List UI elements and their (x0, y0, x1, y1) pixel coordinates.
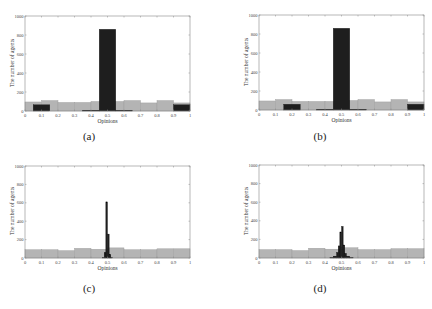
y-tick-label: 1000 (249, 13, 259, 18)
histogram-bar (174, 249, 191, 258)
histogram-bar (358, 100, 375, 110)
histogram-bar (42, 250, 59, 258)
histogram-bar (408, 104, 425, 110)
y-tick-label: 400 (17, 71, 25, 76)
x-tick-label: 0.2 (55, 260, 61, 265)
panel-caption: (b) (300, 130, 340, 142)
x-tick-label: 0.2 (289, 112, 295, 117)
x-tick-label: 0.7 (138, 113, 144, 118)
x-tick-label: 0.3 (72, 113, 78, 118)
y-tick-label: 800 (17, 33, 25, 38)
histogram-bar (309, 248, 326, 258)
x-tick-label: 0 (24, 260, 27, 265)
x-tick-label: 1 (189, 113, 191, 118)
x-tick-label: 0.1 (39, 260, 45, 265)
x-tick-label: 0.4 (322, 112, 328, 117)
histogram-bar (75, 248, 92, 258)
x-tick-label: 0.3 (72, 260, 78, 265)
x-tick-label: 0.2 (55, 113, 61, 118)
histogram-bar (58, 251, 75, 258)
histogram-bar (408, 249, 425, 258)
y-tick-label: 1000 (249, 163, 259, 168)
histogram-bar (340, 232, 342, 258)
x-tick-label: 0.3 (306, 112, 312, 117)
histogram-bar (109, 254, 111, 258)
histogram-panel-b: 00.10.20.30.40.50.60.70.80.9102004006008… (216, 0, 432, 154)
y-tick-label: 800 (251, 32, 259, 37)
x-tick-label: 0.1 (273, 260, 279, 265)
y-tick-label: 600 (251, 51, 259, 56)
histogram-bar (124, 101, 141, 111)
histogram-bar (343, 245, 345, 258)
y-tick-label: 800 (17, 182, 25, 187)
panel-caption: (d) (300, 282, 340, 294)
panel-caption: (c) (69, 282, 109, 294)
histogram-bar (141, 103, 158, 111)
x-tick-label: 0.8 (154, 113, 160, 118)
x-tick-label: 0.1 (39, 113, 45, 118)
y-tick-label: 400 (17, 219, 25, 224)
histogram-bar (99, 29, 116, 111)
series-final (33, 29, 190, 111)
histogram-bar (338, 246, 340, 258)
x-tick-label: 0.9 (405, 260, 411, 265)
histogram-bar (25, 250, 42, 258)
x-axis-label: Opinions (98, 118, 118, 124)
x-tick-label: 0.2 (289, 260, 295, 265)
histogram-panel-c: 00.10.20.30.40.50.60.70.80.9102004006008… (0, 154, 216, 308)
histogram-bar (106, 202, 108, 258)
x-tick-label: 0.8 (154, 260, 160, 265)
x-tick-label: 0.6 (355, 112, 361, 117)
x-tick-label: 1 (423, 260, 425, 265)
x-tick-label: 1 (423, 112, 425, 117)
y-tick-label: 400 (251, 218, 259, 223)
y-tick-label: 200 (251, 89, 259, 94)
x-tick-label: 0.6 (355, 260, 361, 265)
histogram-bar (292, 251, 309, 258)
histogram-bar (375, 102, 392, 110)
x-tick-label: 0.7 (372, 260, 378, 265)
x-tick-label: 0.3 (306, 260, 312, 265)
y-tick-label: 200 (251, 237, 259, 242)
y-tick-label: 1000 (15, 14, 25, 19)
panel-caption: (a) (69, 130, 109, 142)
histogram-bar (124, 250, 141, 258)
x-tick-label: 0.9 (171, 113, 177, 118)
y-tick-label: 800 (251, 181, 259, 186)
y-tick-label: 200 (17, 237, 25, 242)
histogram-bar (58, 102, 75, 111)
histogram-bar (259, 250, 276, 258)
y-axis-label: The number of agents (9, 176, 15, 246)
x-tick-label: 0.8 (388, 260, 394, 265)
x-tick-label: 0.4 (88, 113, 94, 118)
histogram-bar (333, 28, 350, 110)
y-tick-label: 1000 (15, 164, 25, 169)
x-tick-label: 0.1 (273, 112, 279, 117)
histogram-panel-a: 00.10.20.30.40.50.60.70.80.9102004006008… (0, 0, 216, 154)
histogram-bar (141, 250, 158, 258)
y-axis-label: The number of agents (9, 28, 15, 98)
x-tick-label: 0.6 (121, 260, 127, 265)
histogram-bar (358, 250, 375, 258)
histogram-bar (104, 252, 106, 258)
histogram-bar (259, 101, 276, 110)
series-final (284, 28, 424, 110)
y-tick-label: 600 (17, 52, 25, 57)
y-tick-label: 400 (251, 70, 259, 75)
x-tick-label: 0.8 (388, 112, 394, 117)
x-tick-label: 0.9 (171, 260, 177, 265)
histogram-bar (75, 102, 92, 111)
x-tick-label: 0 (24, 113, 27, 118)
histogram-panel-d: 00.10.20.30.40.50.60.70.80.9102004006008… (216, 154, 432, 308)
y-tick-label: 600 (251, 200, 259, 205)
histogram-bar (342, 226, 344, 258)
histogram-bar (108, 234, 110, 258)
x-axis-label: Opinions (332, 117, 352, 123)
histogram-bar (276, 250, 293, 258)
x-axis-label: Opinions (98, 265, 118, 271)
x-tick-label: 0 (258, 260, 261, 265)
x-tick-label: 0.7 (372, 112, 378, 117)
x-tick-label: 1 (189, 260, 191, 265)
y-axis-label: The number of agents (243, 27, 249, 97)
y-tick-label: 200 (17, 90, 25, 95)
